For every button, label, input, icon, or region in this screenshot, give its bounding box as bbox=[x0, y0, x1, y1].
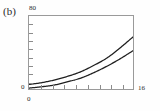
plot-area bbox=[28, 15, 134, 90]
x-tick bbox=[123, 85, 124, 89]
chart-curves bbox=[29, 16, 133, 89]
x-tick bbox=[41, 85, 42, 89]
x-axis-max-label: 16 bbox=[138, 85, 145, 92]
y-tick bbox=[29, 74, 33, 75]
y-tick bbox=[29, 66, 33, 67]
y-tick bbox=[29, 49, 33, 50]
y-axis-min-label: 0 bbox=[21, 84, 25, 91]
x-tick bbox=[53, 85, 54, 89]
x-tick bbox=[64, 85, 65, 89]
x-tick bbox=[100, 85, 101, 89]
x-tick bbox=[88, 85, 89, 89]
panel-label: (b) bbox=[3, 6, 16, 17]
y-tick bbox=[29, 24, 33, 25]
y-tick bbox=[29, 33, 33, 34]
figure-panel-b: (b) 80 0 16 0 bbox=[0, 0, 160, 111]
y-tick bbox=[29, 58, 33, 59]
x-tick bbox=[76, 85, 77, 89]
x-tick bbox=[111, 85, 112, 89]
x-axis-origin-label: 0 bbox=[27, 96, 31, 103]
y-tick bbox=[29, 41, 33, 42]
y-tick bbox=[29, 83, 33, 84]
y-axis-max-label: 80 bbox=[29, 5, 36, 12]
